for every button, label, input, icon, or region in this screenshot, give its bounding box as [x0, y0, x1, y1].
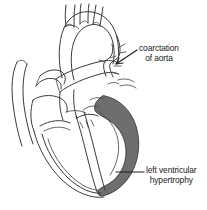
aortic-arch-group — [59, 12, 118, 80]
label-coarctation-line1: coarctation — [139, 43, 179, 53]
label-lvh-line2: hypertrophy — [146, 175, 197, 185]
pulmonary-vein-stubs-group — [108, 79, 136, 88]
coarctation-leader-line — [116, 50, 137, 64]
ventricles-outline-group — [34, 111, 105, 198]
superior-vena-cava-group — [12, 60, 33, 146]
label-left-ventricular-hypertrophy: left ventricular hypertrophy — [146, 165, 197, 185]
label-coarctation-line2: of aorta — [139, 53, 179, 63]
left-ventricular-hypertrophy-shade — [95, 96, 139, 196]
arch-branch-vessels-group — [65, 4, 103, 27]
label-lvh-line1: left ventricular — [146, 165, 197, 175]
anatomical-figure: coarctation of aorta left ventricular hy… — [0, 0, 207, 210]
label-coarctation-of-aorta: coarctation of aorta — [139, 43, 179, 63]
